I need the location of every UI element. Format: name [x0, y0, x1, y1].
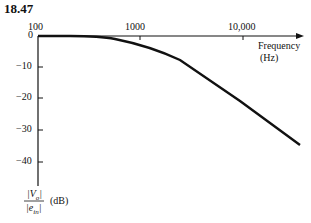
y-label-denominator: |ein| — [26, 202, 41, 216]
y-tick-label-0: 0 — [28, 29, 33, 40]
y-tick-label-40: −40 — [16, 155, 32, 166]
y-label-numerator: |Vo| — [27, 188, 42, 202]
y-tick-label-30: −30 — [16, 123, 32, 134]
plot-area — [0, 0, 311, 223]
x-axis-label: Frequency — [258, 40, 300, 51]
y-label-unit: (dB) — [50, 195, 68, 206]
x-axis-unit: (Hz) — [260, 52, 278, 63]
x-axis-arrow-icon — [296, 33, 304, 39]
y-tick-label-10: −10 — [16, 60, 32, 71]
x-tick-label-1000: 1000 — [125, 21, 145, 32]
chart-figure: 18.47 100 1000 10,000 Frequency (Hz) 0 −… — [0, 0, 311, 223]
y-tick-label-20: −20 — [16, 91, 32, 102]
x-tick-label-10000: 10,000 — [228, 21, 256, 32]
